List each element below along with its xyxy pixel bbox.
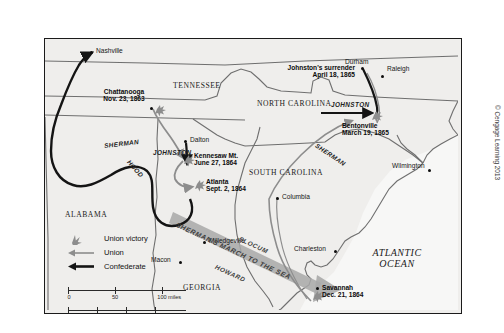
scale-bar-kilometers: 0 50 100 150 kilometers bbox=[68, 302, 198, 314]
legend-item-confederate: Confederate bbox=[68, 260, 198, 273]
scale-number-miles-100: 100 bbox=[157, 294, 166, 300]
scale-unit-miles: miles bbox=[168, 294, 181, 300]
map-legend: Union victory Union Co bbox=[68, 232, 198, 274]
legend-label-union: Union bbox=[104, 248, 124, 257]
scale-line-miles bbox=[68, 290, 186, 291]
scale-number-miles-0: 0 bbox=[67, 294, 70, 300]
civil-war-map-figure: Nashville Dalton Durham Raleigh Wilmingt… bbox=[0, 0, 504, 333]
legend-label-confederate: Confederate bbox=[104, 262, 146, 271]
legend-item-union: Union bbox=[68, 246, 198, 259]
legend-label-union-victory: Union victory bbox=[104, 234, 148, 243]
scale-tick bbox=[68, 287, 69, 294]
scale-number-miles-50: 50 bbox=[112, 294, 118, 300]
scale-tick bbox=[97, 307, 98, 314]
scale-tick bbox=[115, 287, 116, 294]
scale-tick bbox=[162, 287, 163, 294]
legend-item-union-victory: Union victory bbox=[68, 232, 198, 245]
scale-tick bbox=[155, 307, 156, 314]
confederate-arrow-icon bbox=[68, 262, 98, 271]
copyright-notice: © Cengage Learning 2013 bbox=[494, 105, 501, 180]
map-scale-bars: 0 50 100 miles 0 50 100 150 kilometers bbox=[68, 282, 198, 314]
map-frame: Nashville Dalton Durham Raleigh Wilmingt… bbox=[44, 38, 462, 314]
union-victory-icon bbox=[68, 233, 98, 245]
union-arrow-icon bbox=[68, 249, 98, 257]
scale-bar-miles: 0 50 100 miles bbox=[68, 282, 198, 302]
scale-tick bbox=[126, 307, 127, 314]
scale-tick bbox=[68, 307, 69, 314]
